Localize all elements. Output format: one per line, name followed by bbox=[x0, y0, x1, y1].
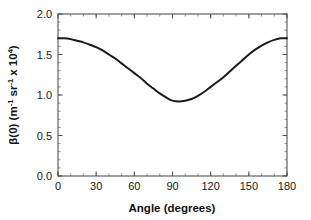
y-axis-title-symbol: β(0) bbox=[7, 123, 19, 144]
y-axis-title-exp2: -1 bbox=[6, 79, 15, 86]
x-tick-label: 0 bbox=[55, 180, 61, 192]
x-tick-label: 150 bbox=[240, 180, 258, 192]
chart-canvas: 0306090120150180 0.00.51.01.52.0 Angle (… bbox=[0, 0, 311, 220]
y-axis-title: β(0) (m-1 sr-1 x 104) bbox=[6, 45, 20, 145]
y-tick-label: 1.0 bbox=[37, 89, 52, 101]
x-tick-label: 30 bbox=[90, 180, 102, 192]
y-axis-title-unit-open: (m bbox=[7, 106, 19, 123]
chart-background bbox=[0, 0, 311, 220]
chart-figure: 0306090120150180 0.00.51.01.52.0 Angle (… bbox=[0, 0, 311, 220]
y-tick-label: 0.5 bbox=[37, 130, 52, 142]
y-tick-label: 2.0 bbox=[37, 8, 52, 20]
x-axis-title: Angle (degrees) bbox=[129, 202, 216, 214]
y-tick-label: 0.0 bbox=[37, 170, 52, 182]
x-tick-label: 180 bbox=[278, 180, 296, 192]
x-tick-label: 60 bbox=[128, 180, 140, 192]
y-axis-title-unit-factor: x 10 bbox=[7, 53, 19, 79]
y-axis-title-exp1: -1 bbox=[6, 100, 15, 107]
y-axis-title-unit-mid: sr bbox=[7, 85, 19, 100]
svg-text:β(0) (m-1 sr-1 x 104): β(0) (m-1 sr-1 x 104) bbox=[6, 45, 20, 145]
x-tick-label: 90 bbox=[166, 180, 178, 192]
y-axis-title-unit-close: ) bbox=[7, 45, 19, 49]
x-tick-label: 120 bbox=[201, 180, 219, 192]
y-tick-label: 1.5 bbox=[37, 49, 52, 61]
